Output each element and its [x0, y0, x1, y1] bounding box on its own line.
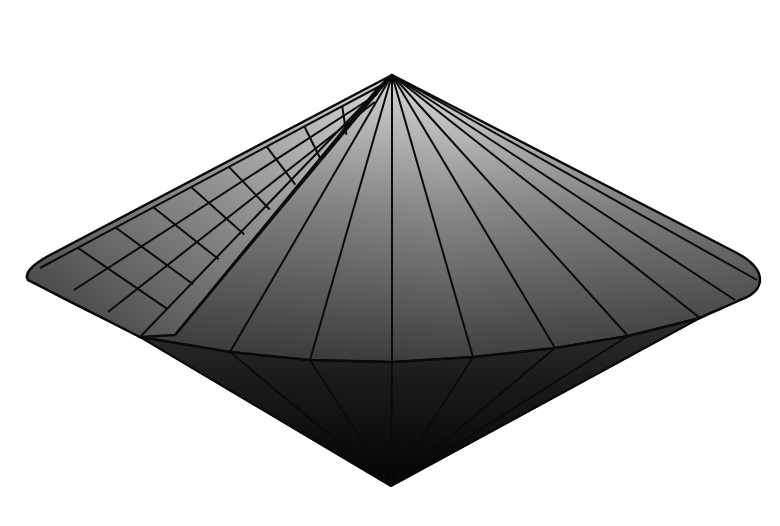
cone-figure: [0, 0, 780, 526]
figure-canvas: [0, 0, 780, 526]
lower-rib-line: [391, 362, 392, 486]
